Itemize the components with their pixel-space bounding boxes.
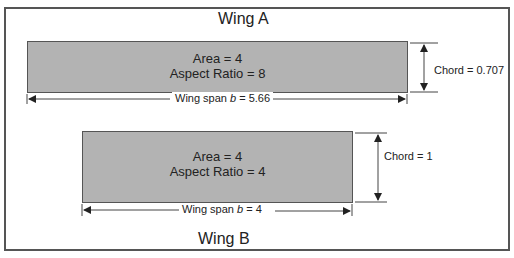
- wing-b-span-label-prefix: Wing span: [182, 203, 237, 215]
- wing-a-span-label-suffix: = 5.66: [236, 92, 270, 104]
- wing-b-span-label: Wing span b = 4: [179, 203, 265, 215]
- dimension-lines: [0, 0, 514, 258]
- wing-a-chord-label: Chord = 0.707: [434, 64, 504, 76]
- wing-a-span-label-prefix: Wing span: [175, 92, 230, 104]
- wing-b-chord-label: Chord = 1: [384, 150, 433, 162]
- wing-b-span-label-suffix: = 4: [243, 203, 262, 215]
- wing-a-span-label: Wing span b = 5.66: [172, 92, 273, 104]
